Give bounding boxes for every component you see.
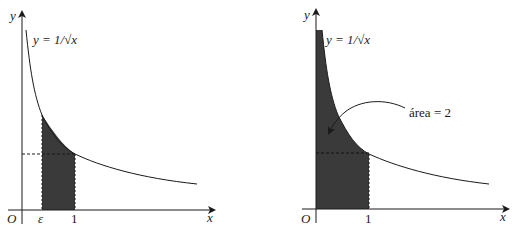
x-axis-label: x xyxy=(499,209,506,224)
y-axis-label: y xyxy=(302,7,310,22)
figure-canvas: y x O y = 1/√x ε 1 y x O y = 1/√x 1 área… xyxy=(0,0,520,234)
tick-label-epsilon: ε xyxy=(38,211,44,226)
x-axis-label: x xyxy=(206,210,213,225)
y-axis-label: y xyxy=(8,8,16,23)
origin-label: O xyxy=(7,211,17,226)
right-panel: y x O y = 1/√x 1 área = 2 xyxy=(301,7,508,226)
shaded-area-0-to-1 xyxy=(316,30,369,209)
shaded-area-epsilon-to-1 xyxy=(42,115,75,210)
tick-label-1: 1 xyxy=(71,211,78,226)
function-label: y = 1/√x xyxy=(31,32,77,47)
left-panel: y x O y = 1/√x ε 1 xyxy=(7,8,214,226)
origin-label: O xyxy=(301,211,311,226)
tick-label-1: 1 xyxy=(365,211,372,226)
function-label: y = 1/√x xyxy=(324,32,370,47)
area-annotation: área = 2 xyxy=(409,105,451,120)
